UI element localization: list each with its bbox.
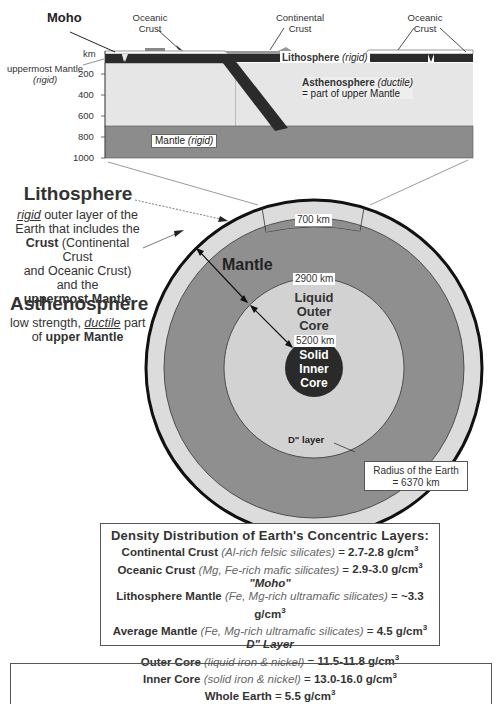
layer-name: Average Mantle xyxy=(113,625,198,637)
mantle-label: Mantle xyxy=(222,257,273,273)
outer-core-label: Liquid Outer Core xyxy=(284,291,344,333)
density-row: Oceanic Crust (Mg, Fe-rich mafic silicat… xyxy=(101,560,439,577)
radius-box: Radius of the Earth = 6370 km xyxy=(364,461,468,491)
uppermost-mantle-note: (rigid) xyxy=(33,75,57,85)
lithosphere-band-label: Lithosphere (rigid) xyxy=(280,53,370,63)
layer-name: Lithosphere Mantle xyxy=(116,590,221,602)
depth-tag-700km: 700 km xyxy=(295,214,332,226)
mantle-band-label: Mantle (rigid) xyxy=(151,134,217,148)
axis-tick-600: 600 xyxy=(78,111,94,121)
d-layer-label: D" layer xyxy=(288,435,324,445)
depth-tag-5200km: 5200 km xyxy=(294,335,336,347)
lithosphere-title: Lithosphere xyxy=(20,184,136,203)
density-divider: "Moho" xyxy=(101,577,439,590)
density-divider: D" Layer xyxy=(101,638,439,651)
layer-composition: (Fe, Mg-rich ultramafic silicates) xyxy=(222,590,388,602)
axis-tick-400: 400 xyxy=(78,90,94,100)
density-value: 2.9-3.0 g/cm3 xyxy=(352,563,422,575)
density-value: 2.7-2.8 g/cm3 xyxy=(348,546,418,558)
layer-name: Oceanic Crust xyxy=(117,563,195,575)
axis-tick-800: 800 xyxy=(78,132,94,142)
axis-tick-1000: 1000 xyxy=(73,153,94,163)
cross-section-graphic xyxy=(70,28,473,205)
continental-crust-label: Continental Crust xyxy=(268,12,332,34)
inner-core-label: Solid Inner Core xyxy=(284,348,344,390)
density-row: Continental Crust (Al-rich felsic silica… xyxy=(101,542,439,559)
layer-composition: (Al-rich felsic silicates) xyxy=(218,546,335,558)
axis-unit-label: km xyxy=(83,49,96,59)
density-value: 4.5 g/cm3 xyxy=(377,625,427,637)
asthenosphere-band-label: Asthenosphere (ductile) = part of upper … xyxy=(302,77,413,99)
bottom-panel xyxy=(10,663,492,704)
density-table: Density Distribution of Earth's Concentr… xyxy=(100,523,440,646)
asthenosphere-title: Asthenosphere xyxy=(10,294,145,313)
layer-composition: (Fe, Mg-rich ultramafic silicates) xyxy=(197,625,363,637)
density-table-title: Density Distribution of Earth's Concentr… xyxy=(101,529,439,542)
asthenosphere-description: low strength, ductile part of upper Mant… xyxy=(10,316,145,344)
layer-composition: (Mg, Fe-rich mafic silicates) xyxy=(195,563,339,575)
oceanic-crust-right-label: Oceanic Crust xyxy=(400,12,450,34)
density-row: Lithosphere Mantle (Fe, Mg-rich ultramaf… xyxy=(101,590,439,621)
uppermost-mantle-label: uppermost Mantle xyxy=(7,64,83,74)
density-row: Average Mantle (Fe, Mg-rich ultramafic s… xyxy=(101,621,439,638)
depth-tag-2900km: 2900 km xyxy=(293,273,335,285)
layer-name: Continental Crust xyxy=(122,546,218,558)
lithosphere-description: rigid outer layer of the Earth that incl… xyxy=(10,208,145,306)
moho-label: Moho xyxy=(47,11,82,24)
oceanic-crust-left-label: Oceanic Crust xyxy=(120,12,180,34)
